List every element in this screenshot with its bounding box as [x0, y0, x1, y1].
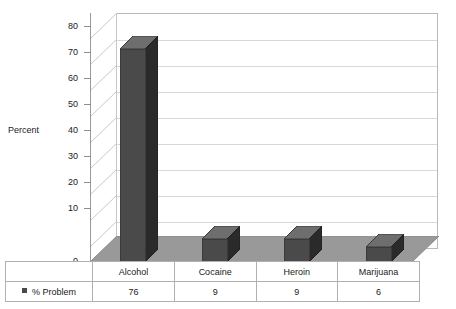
legend-series-label: % Problem [32, 287, 76, 297]
y-tick-mark-40 [84, 130, 91, 131]
chart-side-wall [90, 13, 117, 262]
table-category-heroin: Heroin [256, 262, 338, 282]
plot-area: 80 70 60 50 40 30 20 10 0 Percent [0, 0, 456, 270]
y-tick-label-80: 80 [38, 22, 78, 31]
y-tick-mark-20 [84, 182, 91, 183]
table-value-heroin: 9 [256, 282, 338, 302]
table-category-alcohol: Alcohol [93, 262, 175, 282]
gridline-60 [117, 66, 437, 67]
gridline-20 [117, 170, 437, 171]
y-tick-mark-70 [84, 52, 91, 53]
bar-heroin [284, 226, 322, 262]
table-value-marijuana: 6 [338, 282, 420, 302]
y-tick-label-60: 60 [38, 74, 78, 83]
y-tick-label-30: 30 [38, 152, 78, 161]
chart-back-wall [116, 13, 438, 249]
gridline-50 [117, 92, 437, 93]
table-row-categories: Alcohol Cocaine Heroin Marijuana [6, 262, 420, 282]
table-value-cocaine: 9 [174, 282, 256, 302]
y-tick-mark-30 [84, 156, 91, 157]
bar-front-face-cocaine [202, 239, 228, 262]
y-tick-mark-60 [84, 78, 91, 79]
bar-alcohol [120, 36, 158, 262]
y-tick-label-20: 20 [38, 178, 78, 187]
gridline-40 [117, 118, 437, 119]
square-marker-icon [22, 288, 27, 293]
legend-entry: % Problem [6, 282, 93, 302]
bar-front-face-marijuana [366, 247, 392, 262]
table-category-marijuana: Marijuana [338, 262, 420, 282]
table-value-alcohol: 76 [93, 282, 175, 302]
y-tick-mark-10 [84, 208, 91, 209]
bar-marijuana [366, 234, 404, 262]
gridline-0 [117, 222, 437, 223]
table-corner-blank [6, 262, 93, 282]
y-axis-line [90, 13, 91, 262]
y-tick-label-70: 70 [38, 48, 78, 57]
y-tick-label-50: 50 [38, 100, 78, 109]
bar-cocaine [202, 226, 240, 262]
chart-container: 80 70 60 50 40 30 20 10 0 Percent Alcoho… [0, 0, 456, 309]
y-tick-mark-50 [84, 104, 91, 105]
gridline-70 [117, 40, 437, 41]
y-axis-title: Percent [8, 126, 56, 135]
gridline-30 [117, 144, 437, 145]
y-tick-label-10: 10 [38, 204, 78, 213]
bar-front-face-alcohol [120, 49, 146, 262]
table-category-cocaine: Cocaine [174, 262, 256, 282]
bar-front-face-heroin [284, 239, 310, 262]
chart-data-table: Alcohol Cocaine Heroin Marijuana % Probl… [5, 261, 420, 302]
y-tick-mark-80 [84, 26, 91, 27]
table-row-values: % Problem 76 9 9 6 [6, 282, 420, 302]
gridline-10 [117, 196, 437, 197]
